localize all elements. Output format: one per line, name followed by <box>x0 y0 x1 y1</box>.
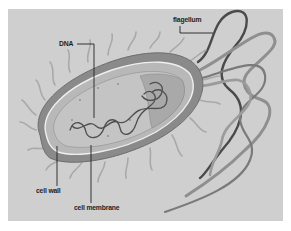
bacterium-illustration <box>0 0 291 231</box>
label-cell-wall: cell wall <box>36 186 61 195</box>
label-dna: DNA <box>59 39 73 48</box>
label-flagellum: flagellum <box>173 15 201 24</box>
cell-body <box>38 53 203 162</box>
label-cell-membrane: cell membrane <box>74 203 119 212</box>
